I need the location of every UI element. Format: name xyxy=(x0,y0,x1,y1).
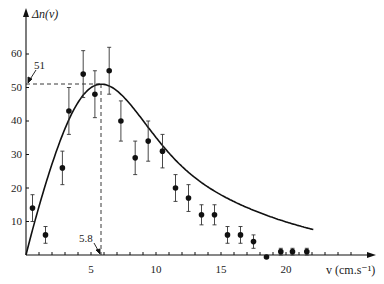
data-point xyxy=(145,121,151,161)
data-point xyxy=(160,134,166,168)
x-axis-label: v (cm.s⁻¹) xyxy=(326,264,375,276)
annotation-arrows xyxy=(28,70,100,254)
x-tick-label-20: 20 xyxy=(276,264,296,275)
y-axis-label: Δn(v) xyxy=(32,8,58,20)
peak-x-annotation: 5.8 xyxy=(79,233,93,244)
data-point xyxy=(238,227,244,244)
y-axis-arrow-icon xyxy=(23,8,29,17)
data-point xyxy=(132,141,138,175)
data-point xyxy=(186,185,192,212)
data-point xyxy=(118,101,124,141)
data-point xyxy=(173,175,179,202)
data-point xyxy=(80,51,86,98)
data-point xyxy=(212,205,218,225)
x-tick-label-10: 10 xyxy=(146,264,166,275)
chart-plot xyxy=(0,0,384,284)
x-tick-label-5: 5 xyxy=(81,264,101,275)
data-point xyxy=(92,71,98,118)
data-point xyxy=(251,235,257,248)
data-point xyxy=(60,151,66,185)
data-point xyxy=(264,254,270,260)
x-tick-label-15: 15 xyxy=(211,264,231,275)
data-point xyxy=(278,248,284,255)
data-point xyxy=(199,205,205,225)
data-point xyxy=(304,248,310,255)
y-tick-label-40: 40 xyxy=(0,115,22,126)
data-point xyxy=(43,227,49,244)
data-point xyxy=(30,195,36,222)
data-point xyxy=(66,88,72,135)
y-tick-label-60: 60 xyxy=(0,48,22,59)
y-tick-label-30: 30 xyxy=(0,149,22,160)
data-point xyxy=(290,248,296,255)
data-point xyxy=(225,227,231,244)
x-axis-arrow-icon xyxy=(367,252,376,258)
y-tick-label-50: 50 xyxy=(0,82,22,93)
axes xyxy=(26,14,370,255)
y-tick-label-10: 10 xyxy=(0,216,22,227)
y-tick-label-20: 20 xyxy=(0,183,22,194)
peak-y-annotation: 51 xyxy=(34,60,45,71)
